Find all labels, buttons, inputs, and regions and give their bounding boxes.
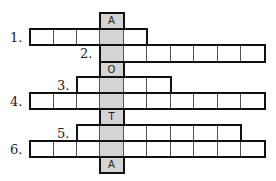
crossword-cell[interactable]	[218, 141, 241, 157]
crossword-cell[interactable]	[171, 125, 194, 141]
crossword-cell[interactable]	[218, 125, 241, 141]
crossword-cell[interactable]	[77, 93, 100, 109]
crossword-cell[interactable]	[147, 93, 171, 109]
key-letter: O	[100, 62, 123, 76]
crossword-cell[interactable]	[124, 141, 147, 157]
clue-number: 2.	[80, 47, 92, 60]
crossword-cell[interactable]	[77, 141, 100, 157]
crossword-cell[interactable]: T	[100, 109, 124, 125]
crossword-cell[interactable]	[77, 77, 100, 93]
crossword-cell[interactable]	[124, 93, 147, 109]
crossword-cell[interactable]	[124, 45, 147, 62]
crossword-cell[interactable]	[194, 141, 218, 157]
key-letter: T	[100, 109, 123, 124]
crossword-cell[interactable]	[30, 29, 54, 45]
clue-number: 1.	[10, 31, 22, 44]
crossword-cell[interactable]	[100, 93, 124, 109]
crossword-cell[interactable]	[77, 125, 100, 141]
crossword-cell[interactable]	[147, 45, 171, 62]
crossword-cell[interactable]	[241, 45, 265, 62]
crossword-cell[interactable]	[241, 141, 265, 157]
crossword-cell[interactable]	[171, 141, 194, 157]
crossword-cell[interactable]	[54, 141, 77, 157]
crossword-cell[interactable]	[147, 141, 171, 157]
crossword-cell[interactable]	[194, 93, 218, 109]
crossword-cell[interactable]	[218, 45, 241, 62]
crossword-cell[interactable]	[54, 29, 77, 45]
clue-number: 4.	[10, 95, 22, 108]
key-letter: A	[100, 157, 123, 172]
crossword-cell[interactable]	[77, 29, 100, 45]
crossword-cell[interactable]	[124, 29, 147, 45]
crossword-cell[interactable]	[100, 125, 124, 141]
crossword-cell[interactable]	[194, 125, 218, 141]
crossword-cell[interactable]	[218, 93, 241, 109]
crossword-cell[interactable]	[171, 93, 194, 109]
crossword-cell[interactable]	[100, 141, 124, 157]
crossword-cell[interactable]	[54, 93, 77, 109]
clue-number: 3.	[57, 79, 69, 92]
crossword-cell[interactable]	[241, 93, 265, 109]
crossword-cell[interactable]	[124, 77, 147, 93]
crossword-cell[interactable]	[194, 45, 218, 62]
crossword-cell[interactable]	[147, 77, 171, 93]
crossword-cell[interactable]: O	[100, 62, 124, 77]
clue-number: 5.	[57, 127, 69, 140]
crossword-cell[interactable]	[100, 77, 124, 93]
crossword-cell[interactable]	[30, 141, 54, 157]
crossword-cell[interactable]	[147, 125, 171, 141]
key-letter: A	[100, 13, 123, 28]
crossword-cell[interactable]	[30, 93, 54, 109]
crossword-cell[interactable]: A	[100, 157, 124, 173]
crossword-cell[interactable]	[171, 45, 194, 62]
crossword-cell[interactable]	[100, 45, 124, 62]
crossword-cell[interactable]: A	[100, 13, 124, 29]
crossword-grid: AOTA1.2.3.4.5.6.	[0, 0, 276, 181]
crossword-cell[interactable]	[124, 125, 147, 141]
crossword-cell[interactable]	[100, 29, 124, 45]
clue-number: 6.	[10, 143, 22, 156]
